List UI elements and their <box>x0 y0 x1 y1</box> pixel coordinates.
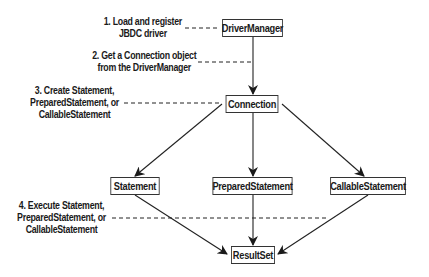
step-4-label: 4. Execute Statement, PreparedStatement,… <box>17 200 106 236</box>
step-1-line-1: 1. Load and register <box>104 16 182 28</box>
edge-connection-to-callable <box>282 104 364 176</box>
step-1-line-2: JBDC driver <box>104 28 182 40</box>
node-callable-statement: CallableStatement <box>330 177 406 195</box>
node-prepared-statement: PreparedStatement <box>212 177 292 195</box>
step-2-label: 2. Get a Connection object from the Driv… <box>92 50 196 74</box>
node-result-set: ResultSet <box>231 246 275 264</box>
edge-callable-to-resultset <box>278 195 368 254</box>
step-4-line-2: PreparedStatement, or <box>17 212 106 224</box>
node-driver-manager: DriverManager <box>222 19 283 37</box>
step-2-line-1: 2. Get a Connection object <box>92 50 196 62</box>
step-4-line-3: CallableStatement <box>17 224 106 236</box>
step-3-line-3: CallableStatement <box>30 109 119 121</box>
step-3-line-2: PreparedStatement, or <box>30 97 119 109</box>
edge-statement-to-resultset <box>135 195 227 254</box>
step-2-line-2: from the DriverManager <box>92 62 196 74</box>
step-4-line-1: 4. Execute Statement, <box>17 200 106 212</box>
step-3-label: 3. Create Statement, PreparedStatement, … <box>30 85 119 121</box>
step-3-line-1: 3. Create Statement, <box>30 85 119 97</box>
edge-connection-to-statement <box>135 104 222 176</box>
node-connection: Connection <box>226 95 279 113</box>
node-statement: Statement <box>110 177 159 195</box>
step-1-label: 1. Load and register JBDC driver <box>104 16 182 40</box>
